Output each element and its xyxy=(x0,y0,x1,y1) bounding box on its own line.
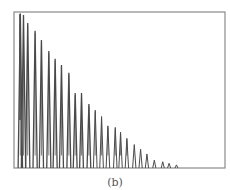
decaying-oscillation-chart xyxy=(0,0,230,190)
signal-spike xyxy=(145,154,148,168)
figure-caption: (b) xyxy=(0,176,230,189)
signal-spike xyxy=(168,163,171,168)
signal-spike xyxy=(133,145,136,168)
signal-spike xyxy=(161,162,164,168)
signal-spikes xyxy=(18,14,178,168)
signal-spike xyxy=(153,160,156,168)
signal-spike xyxy=(139,149,142,168)
